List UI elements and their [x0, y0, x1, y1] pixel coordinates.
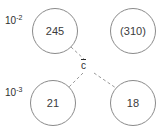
- row-label-top-base: 10: [5, 15, 16, 26]
- node-top-right-label: (310): [120, 26, 146, 37]
- node-top-right[interactable]: (310): [110, 8, 156, 54]
- row-label-bottom-base: 10: [5, 87, 16, 98]
- edge-center-to-bottom-right: [94, 73, 116, 88]
- node-top-left-label: 245: [46, 26, 65, 37]
- node-bottom-left[interactable]: 21: [30, 80, 76, 126]
- row-label-bottom-exponent: -3: [16, 86, 22, 93]
- row-label-top: 10-2: [5, 16, 22, 26]
- edge-center-to-bottom-left: [69, 73, 83, 87]
- node-top-left[interactable]: 245: [32, 8, 78, 54]
- center-label: c: [81, 59, 86, 71]
- node-link-diagram: 10-2 10-3 245 (310) 21 18 c: [0, 0, 164, 135]
- center-label-text: c: [81, 59, 86, 71]
- row-label-bottom: 10-3: [5, 88, 22, 98]
- node-bottom-right[interactable]: 18: [110, 80, 156, 126]
- node-bottom-left-label: 21: [47, 98, 59, 109]
- row-label-top-exponent: -2: [16, 14, 22, 21]
- node-bottom-right-label: 18: [127, 98, 139, 109]
